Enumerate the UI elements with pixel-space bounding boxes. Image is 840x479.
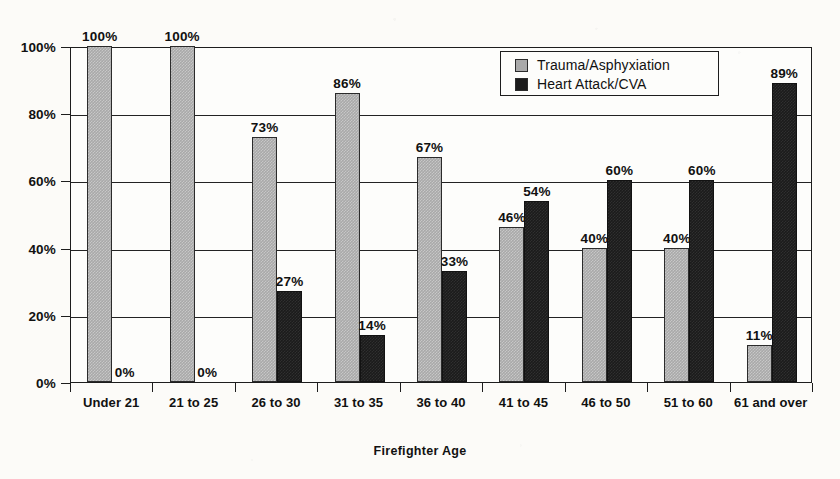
x-axis-category-label: 26 to 30: [235, 394, 317, 411]
bar-value-label: 60%: [589, 163, 649, 178]
y-axis-tick-mark: [61, 47, 70, 48]
bar: [170, 46, 195, 382]
bar: [582, 248, 607, 382]
chart-legend: Trauma/Asphyxiation Heart Attack/CVA: [500, 51, 719, 96]
y-axis-tick-label: 20%: [0, 308, 56, 323]
x-axis-category-label: 61 and over: [730, 394, 812, 411]
x-axis-category-label: Under 21: [70, 394, 152, 411]
x-axis-category-label: 41 to 45: [482, 394, 564, 411]
x-axis-category-label: 21 to 25: [152, 394, 234, 411]
bar-value-label: 89%: [754, 66, 814, 81]
x-axis-tick-mark: [235, 383, 236, 392]
bar-value-label: 60%: [672, 163, 732, 178]
bar: [524, 201, 549, 382]
bar-value-label: 73%: [235, 120, 295, 135]
x-axis-category-label: 46 to 50: [565, 394, 647, 411]
x-axis-tick-mark: [812, 383, 813, 392]
x-axis-tick-mark: [647, 383, 648, 392]
x-axis-tick-mark: [317, 383, 318, 392]
legend-swatch-trauma-asphyxiation: [515, 59, 528, 72]
bar: [87, 46, 112, 382]
y-axis-tick-mark: [61, 114, 70, 115]
bar: [689, 180, 714, 382]
legend-label-trauma-asphyxiation: Trauma/Asphyxiation: [537, 57, 670, 73]
x-axis-category-label: 31 to 35: [317, 394, 399, 411]
y-axis-tick-mark: [61, 181, 70, 182]
legend-item-trauma-asphyxiation: Trauma/Asphyxiation: [515, 56, 718, 74]
x-axis-tick-mark: [482, 383, 483, 392]
bar-value-label: 100%: [152, 29, 212, 44]
x-axis-category-label: 36 to 40: [400, 394, 482, 411]
x-axis-tick-mark: [730, 383, 731, 392]
y-axis-tick-label: 60%: [0, 174, 56, 189]
bar: [442, 271, 467, 382]
bar-value-label: 33%: [425, 254, 485, 269]
y-axis-tick-label: 80%: [0, 107, 56, 122]
bar: [499, 227, 524, 382]
bar: [607, 180, 632, 382]
x-axis-category-label: 51 to 60: [647, 394, 729, 411]
y-axis-tick-label: 100%: [0, 40, 56, 55]
bar: [417, 157, 442, 382]
x-axis-tick-mark: [70, 383, 71, 392]
bar: [360, 335, 385, 382]
bar-value-label: 0%: [177, 365, 237, 380]
legend-label-heart-attack-cva: Heart Attack/CVA: [537, 76, 647, 92]
bar-value-label: 86%: [317, 76, 377, 91]
x-axis-tick-mark: [400, 383, 401, 392]
legend-swatch-heart-attack-cva: [515, 78, 528, 91]
bar-value-label: 54%: [507, 184, 567, 199]
y-axis-tick-mark: [61, 316, 70, 317]
bar-value-label: 14%: [342, 318, 402, 333]
y-axis-tick-mark: [61, 383, 70, 384]
x-axis-tick-mark: [565, 383, 566, 392]
bar: [664, 248, 689, 382]
y-axis-tick-label: 0%: [0, 376, 56, 391]
bar: [772, 83, 797, 382]
bar: [747, 345, 772, 382]
legend-item-heart-attack-cva: Heart Attack/CVA: [515, 75, 718, 93]
bar-value-label: 0%: [95, 365, 155, 380]
bar: [252, 137, 277, 382]
bar: [335, 93, 360, 382]
bar-chart-figure: 0%20%40%60%80%100% 100%0%100%0%73%27%86%…: [0, 0, 840, 479]
plot-area: 100%0%100%0%73%27%86%14%67%33%46%54%40%6…: [70, 47, 812, 383]
y-axis-tick-label: 40%: [0, 241, 56, 256]
bar: [277, 291, 302, 382]
bar-value-label: 100%: [70, 29, 130, 44]
bar-value-label: 27%: [260, 274, 320, 289]
bar-value-label: 67%: [400, 140, 460, 155]
x-axis-tick-mark: [152, 383, 153, 392]
y-axis-tick-mark: [61, 249, 70, 250]
x-axis-title: Firefighter Age: [0, 444, 840, 458]
